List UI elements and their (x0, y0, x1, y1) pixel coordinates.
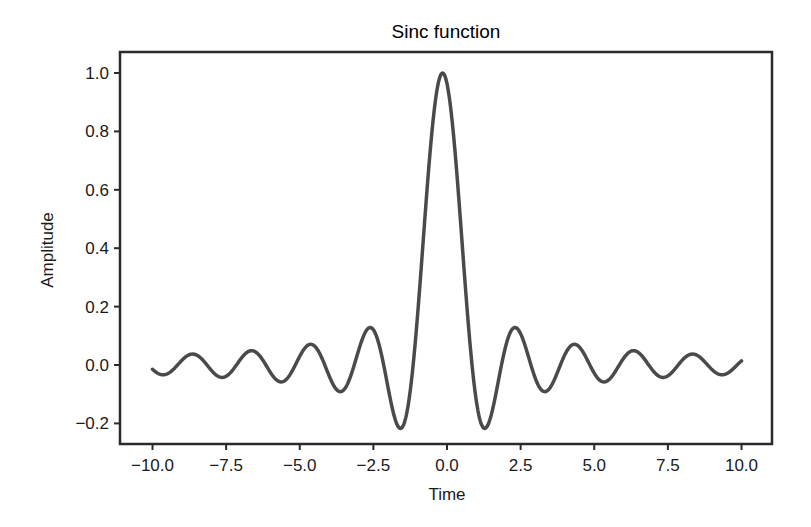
x-tick-label: −5.0 (283, 456, 317, 475)
y-axis-label: Amplitude (38, 212, 57, 288)
x-tick-label: 7.5 (656, 456, 680, 475)
sinc-curve (153, 73, 742, 428)
x-tick-label: 0.0 (435, 456, 459, 475)
sinc-chart: Sinc function −10.0−7.5−5.0−2.50.02.55.0… (0, 0, 811, 527)
y-tick-label: 1.0 (85, 64, 109, 83)
x-axis-ticks: −10.0−7.5−5.0−2.50.02.55.07.510.0 (131, 444, 758, 475)
x-tick-label: 2.5 (509, 456, 533, 475)
x-tick-label: −7.5 (209, 456, 243, 475)
x-tick-label: 5.0 (582, 456, 606, 475)
y-tick-label: 0.0 (85, 356, 109, 375)
x-axis-label: Time (428, 485, 465, 504)
y-tick-label: 0.6 (85, 181, 109, 200)
y-axis-ticks: 1.00.80.60.40.20.0−0.2 (75, 64, 120, 433)
chart-title: Sinc function (392, 21, 501, 42)
y-tick-label: −0.2 (75, 414, 109, 433)
y-tick-label: 0.2 (85, 298, 109, 317)
x-tick-label: 10.0 (725, 456, 758, 475)
y-tick-label: 0.4 (85, 239, 109, 258)
y-tick-label: 0.8 (85, 122, 109, 141)
plot-frame (120, 52, 772, 444)
x-tick-label: −2.5 (357, 456, 391, 475)
x-tick-label: −10.0 (131, 456, 174, 475)
